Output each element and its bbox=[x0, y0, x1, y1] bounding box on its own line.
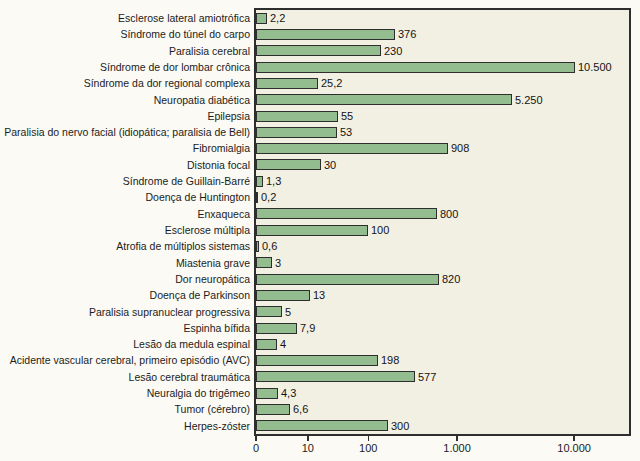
bar bbox=[256, 290, 310, 301]
category-label: Síndrome do túnel do carpo bbox=[120, 26, 250, 42]
value-label: 30 bbox=[324, 157, 336, 173]
x-tick-mark bbox=[456, 436, 458, 441]
value-label: 10.500 bbox=[578, 59, 612, 75]
bar bbox=[256, 78, 318, 89]
bar bbox=[256, 94, 512, 105]
x-tick-mark bbox=[307, 436, 309, 441]
category-label: Síndrome da dor regional complexa bbox=[84, 75, 250, 91]
bar bbox=[256, 159, 321, 170]
bar bbox=[256, 176, 263, 187]
category-label: Atrofia de múltiplos sistemas bbox=[116, 238, 250, 254]
bar bbox=[256, 257, 272, 268]
bar bbox=[256, 62, 575, 73]
category-label: Neuropatia diabética bbox=[154, 92, 250, 108]
bar bbox=[256, 355, 378, 366]
x-tick-label: 100 bbox=[359, 442, 377, 454]
value-label: 4,3 bbox=[281, 385, 296, 401]
category-label: Síndrome de dor lombar crônica bbox=[100, 59, 250, 75]
value-label: 100 bbox=[371, 222, 389, 238]
value-label: 908 bbox=[451, 140, 469, 156]
value-label: 5.250 bbox=[515, 92, 543, 108]
value-label: 0,2 bbox=[261, 189, 276, 205]
category-label: Distonia focal bbox=[187, 157, 250, 173]
bar bbox=[256, 420, 388, 431]
category-label: Paralisia do nervo facial (idiopática; p… bbox=[4, 124, 250, 140]
category-label: Neuralgia do trigêmeo bbox=[147, 385, 250, 401]
category-label: Síndrome de Guillain-Barré bbox=[123, 173, 250, 189]
bar-chart-figure: Esclerose lateral amiotróficaSíndrome do… bbox=[0, 0, 640, 461]
value-label: 800 bbox=[440, 206, 458, 222]
bar bbox=[256, 339, 277, 350]
value-label: 7,9 bbox=[300, 320, 315, 336]
category-label: Miastenia grave bbox=[176, 255, 250, 271]
bar bbox=[256, 306, 282, 317]
x-tick-label: 10 bbox=[302, 442, 314, 454]
category-label: Fibromialgia bbox=[193, 140, 250, 156]
bar bbox=[256, 111, 338, 122]
value-label: 3 bbox=[275, 255, 281, 271]
bar bbox=[256, 29, 395, 40]
bar bbox=[256, 208, 437, 219]
category-label: Paralisia cerebral bbox=[169, 43, 250, 59]
bar bbox=[256, 143, 448, 154]
x-tick-label: 0 bbox=[253, 442, 259, 454]
value-label: 300 bbox=[391, 418, 409, 434]
category-label: Herpes-zóster bbox=[184, 418, 250, 434]
category-label: Doença de Parkinson bbox=[150, 287, 250, 303]
x-tick-mark bbox=[573, 436, 575, 441]
value-label: 6,6 bbox=[293, 401, 308, 417]
category-label: Espinha bífida bbox=[183, 320, 250, 336]
bar bbox=[256, 274, 439, 285]
value-label: 376 bbox=[398, 26, 416, 42]
value-label: 1,3 bbox=[266, 173, 281, 189]
value-label: 2,2 bbox=[270, 10, 285, 26]
category-label: Epilepsia bbox=[207, 108, 250, 124]
value-label: 820 bbox=[442, 271, 460, 287]
value-label: 25,2 bbox=[321, 75, 342, 91]
value-label: 4 bbox=[280, 336, 286, 352]
category-label: Tumor (cérebro) bbox=[175, 401, 250, 417]
bar bbox=[256, 192, 258, 203]
category-label: Esclerose lateral amiotrófica bbox=[118, 10, 250, 26]
value-label: 0,6 bbox=[262, 238, 277, 254]
bar bbox=[256, 388, 278, 399]
value-label: 198 bbox=[381, 352, 399, 368]
category-label: Dor neuropática bbox=[175, 271, 250, 287]
value-label: 230 bbox=[384, 43, 402, 59]
category-label: Acidente vascular cerebral, primeiro epi… bbox=[10, 352, 250, 368]
bar bbox=[256, 241, 259, 252]
category-label: Lesão cerebral traumática bbox=[129, 369, 250, 385]
category-label: Doença de Huntington bbox=[146, 189, 251, 205]
bar bbox=[256, 323, 297, 334]
value-label: 5 bbox=[285, 304, 291, 320]
bar bbox=[256, 45, 381, 56]
value-label: 13 bbox=[313, 287, 325, 303]
value-label: 577 bbox=[418, 369, 436, 385]
value-label: 53 bbox=[340, 124, 352, 140]
bar bbox=[256, 404, 290, 415]
bar bbox=[256, 13, 267, 24]
x-tick-label: 1.000 bbox=[443, 442, 471, 454]
category-label: Esclerose múltipla bbox=[165, 222, 250, 238]
value-label: 55 bbox=[341, 108, 353, 124]
x-tick-label: 10.000 bbox=[557, 442, 591, 454]
bar bbox=[256, 127, 337, 138]
x-tick-mark bbox=[255, 436, 257, 441]
bar bbox=[256, 371, 415, 382]
bar bbox=[256, 225, 368, 236]
category-label: Lesão da medula espinal bbox=[133, 336, 250, 352]
category-label: Paralisia supranuclear progressiva bbox=[89, 304, 250, 320]
x-tick-mark bbox=[368, 436, 370, 441]
category-label: Enxaqueca bbox=[197, 206, 250, 222]
